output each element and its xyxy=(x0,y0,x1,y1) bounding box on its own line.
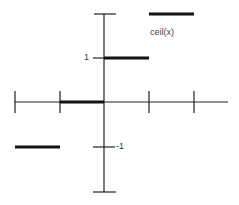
y-tick-label-1: 1 xyxy=(84,53,89,62)
function-label: ceil(x) xyxy=(150,28,174,37)
chart-plot-area xyxy=(0,0,239,205)
y-tick-label-neg1: -1 xyxy=(116,142,124,151)
